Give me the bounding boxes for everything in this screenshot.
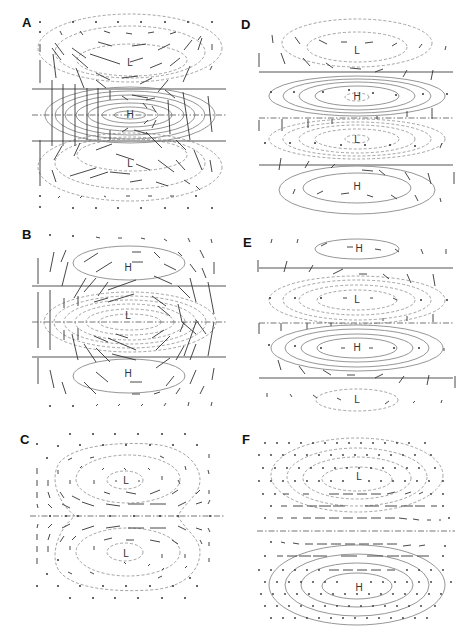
- center-label: H: [353, 181, 360, 192]
- panel-e: E H L H L: [235, 210, 471, 420]
- panel-a: A: [0, 0, 235, 215]
- center-label: H: [355, 582, 362, 593]
- center-label: H: [124, 368, 131, 379]
- panel-e-diagram: H L H L: [235, 210, 471, 420]
- center-label: H: [355, 243, 362, 254]
- center-label: L: [123, 548, 129, 559]
- center-label: L: [123, 475, 129, 486]
- center-label: L: [127, 158, 133, 169]
- center-label: L: [354, 45, 360, 56]
- panel-b: B H L H: [0, 210, 235, 420]
- center-label: H: [126, 109, 133, 120]
- panel-d: D L H L H: [235, 0, 471, 215]
- panel-c: C L L: [0, 420, 235, 642]
- center-label: L: [356, 471, 362, 482]
- panel-f-diagram: L H: [235, 420, 471, 642]
- panel-c-diagram: L L: [0, 420, 235, 642]
- center-label: H: [353, 91, 360, 102]
- center-label: L: [354, 134, 360, 145]
- center-label: H: [353, 342, 360, 353]
- center-label: L: [354, 394, 360, 405]
- panel-a-diagram: L H L: [0, 0, 235, 215]
- center-label: L: [127, 57, 133, 68]
- center-label: L: [354, 294, 360, 305]
- center-label: L: [125, 310, 131, 321]
- panel-f: F: [235, 420, 471, 642]
- center-label: H: [124, 262, 131, 273]
- panel-b-diagram: H L H: [0, 210, 235, 420]
- panel-d-diagram: L H L H: [235, 0, 471, 215]
